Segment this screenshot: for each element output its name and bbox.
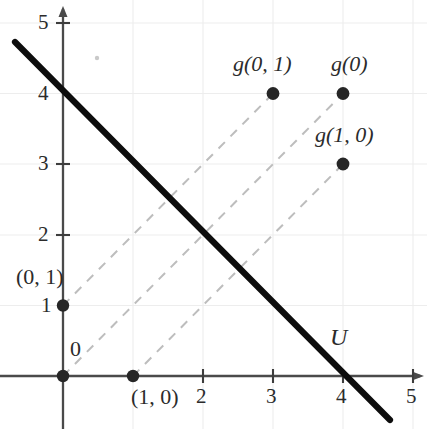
y-axis-tick-label-4: 4 <box>38 83 49 104</box>
point-0-1 <box>57 299 69 311</box>
x-axis-tick-label-4: 4 <box>336 386 347 407</box>
label-line-U: U <box>330 325 347 349</box>
point-g-0 <box>337 87 350 100</box>
label-origin: 0 <box>70 338 81 360</box>
y-axis-tick-label-2: 2 <box>38 224 49 245</box>
x-axis-tick-label-5: 5 <box>406 386 417 407</box>
scan-speck <box>95 56 99 60</box>
y-axis-tick-label-5: 5 <box>38 12 49 33</box>
label-g-of-0: g(0) <box>331 53 368 75</box>
label-g-of-1-0: g(1, 0) <box>315 124 374 146</box>
label-point-1-0: (1, 0) <box>131 386 179 408</box>
point-1-0 <box>127 370 139 382</box>
y-axis-tick-label-1: 1 <box>41 295 52 316</box>
point-g-1-0 <box>337 158 350 171</box>
x-axis-tick-label-2: 2 <box>196 386 207 407</box>
y-axis-tick-label-3: 3 <box>38 153 49 174</box>
point-origin <box>57 370 69 382</box>
x-axis-tick-label-3: 3 <box>266 386 277 407</box>
label-g-of-0-1: g(0, 1) <box>233 53 292 75</box>
y-axis-arrowhead <box>59 6 68 17</box>
point-g-0-1 <box>267 87 280 100</box>
label-point-0-1: (0, 1) <box>16 266 64 288</box>
coordinate-plane-figure: 5 4 3 2 1 2 3 4 5 (0, 1) 0 (1, 0) g(0, 1… <box>0 0 427 429</box>
